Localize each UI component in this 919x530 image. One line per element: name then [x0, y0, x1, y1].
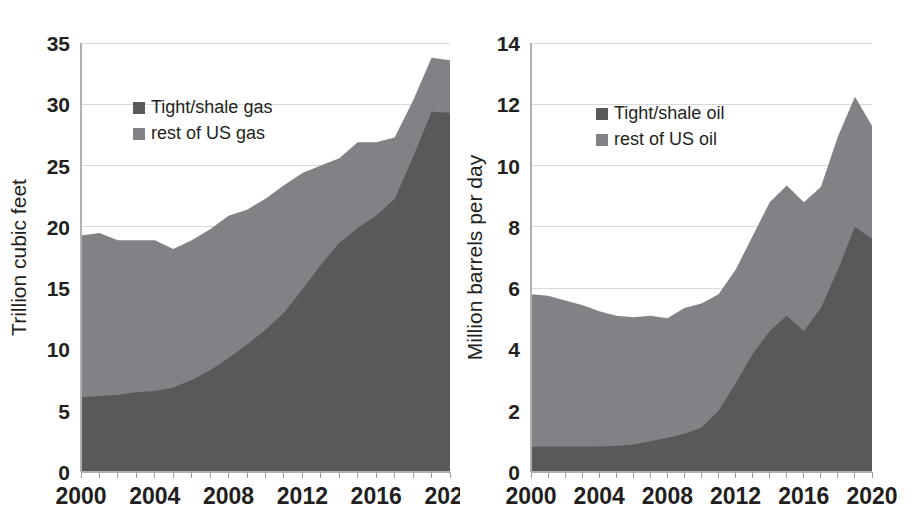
ytick-label-15: 15: [47, 277, 71, 300]
gas-y-axis-title-text: Trillion cubic feet: [7, 179, 30, 336]
xtick-label-2020: 2020: [846, 483, 897, 509]
oil-chart-canvas: 02468101214 200020042008201220162020 Mil…: [460, 0, 919, 530]
ytick-label-14: 14: [497, 32, 521, 55]
xtick-label-2012: 2012: [710, 483, 761, 509]
xtick-label-2004: 2004: [129, 483, 180, 509]
ytick-label-8: 8: [508, 216, 520, 239]
oil-areas: [531, 97, 872, 472]
legend-swatch-rest-of-us: [133, 128, 145, 140]
ytick-label-6: 6: [508, 277, 520, 300]
gas-areas: [81, 58, 450, 472]
gas-panel: 05101520253035 200020042008201220162020 …: [0, 0, 460, 530]
oil-y-axis-title: Million barrels per day: [463, 154, 486, 360]
ytick-label-12: 12: [497, 93, 520, 116]
gas-xtick-labels: 200020042008201220162020: [55, 483, 460, 509]
ytick-label-2: 2: [508, 400, 520, 423]
ytick-label-0: 0: [508, 461, 520, 484]
gas-y-axis-title: Trillion cubic feet: [7, 179, 30, 336]
oil-panel: 02468101214 200020042008201220162020 Mil…: [460, 0, 919, 530]
oil-legend: Tight/shale oilrest of US oil: [596, 103, 724, 149]
oil-y-axis-title-text: Million barrels per day: [463, 154, 486, 360]
ytick-label-10: 10: [47, 338, 70, 361]
legend-swatch-rest-of-us: [596, 134, 608, 146]
legend-label-tight-shale: Tight/shale gas: [151, 97, 272, 117]
legend-swatch-tight-shale: [133, 102, 145, 114]
xtick-label-2004: 2004: [574, 483, 625, 509]
legend-label-rest-of-us: rest of US oil: [614, 129, 717, 149]
gas-legend: Tight/shale gasrest of US gas: [133, 97, 272, 143]
xtick-label-2008: 2008: [642, 483, 693, 509]
ytick-label-10: 10: [497, 155, 520, 178]
gas-chart-canvas: 05101520253035 200020042008201220162020 …: [0, 0, 460, 530]
xtick-label-2000: 2000: [505, 483, 556, 509]
ytick-label-35: 35: [47, 32, 71, 55]
oil-xtick-labels: 200020042008201220162020: [505, 483, 897, 509]
xtick-label-2016: 2016: [351, 483, 402, 509]
legend-swatch-tight-shale: [596, 108, 608, 120]
ytick-label-5: 5: [58, 400, 70, 423]
gas-ytick-labels: 05101520253035: [47, 32, 71, 484]
ytick-label-20: 20: [47, 216, 70, 239]
legend-label-rest-of-us: rest of US gas: [151, 123, 265, 143]
ytick-label-0: 0: [58, 461, 70, 484]
figure-root: 05101520253035 200020042008201220162020 …: [0, 0, 919, 530]
ytick-label-25: 25: [47, 155, 71, 178]
legend-label-tight-shale: Tight/shale oil: [614, 103, 724, 123]
ytick-label-30: 30: [47, 93, 70, 116]
xtick-label-2008: 2008: [203, 483, 254, 509]
xtick-label-2012: 2012: [277, 483, 328, 509]
xtick-label-2016: 2016: [778, 483, 829, 509]
oil-ytick-labels: 02468101214: [497, 32, 521, 484]
ytick-label-4: 4: [508, 338, 520, 361]
xtick-label-2000: 2000: [55, 483, 106, 509]
xtick-label-2020: 2020: [424, 483, 460, 509]
